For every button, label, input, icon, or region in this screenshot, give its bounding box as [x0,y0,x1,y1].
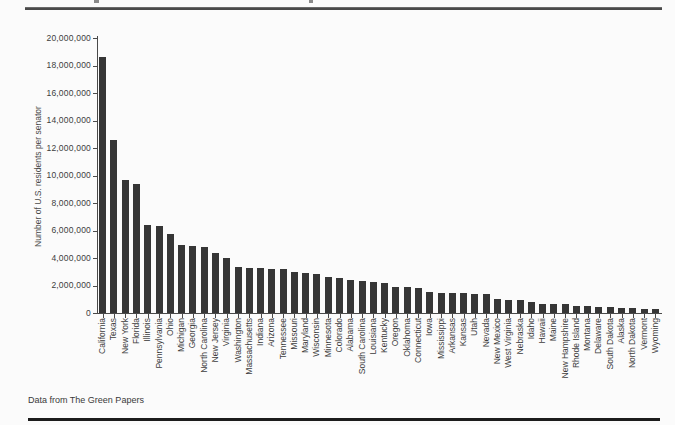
x-label-south-carolina: South Carolina [358,318,367,390]
bar-kansas [460,293,467,313]
y-tick-mark [93,121,97,122]
y-tick-mark [93,176,97,177]
x-label-louisiana: Louisiana [369,318,378,390]
bar-south-carolina [359,281,366,313]
y-tick-mark [93,38,97,39]
residents-per-senator-bar-chart: Number of U.S. residents per senator 02,… [0,0,675,425]
bar-california [99,57,106,313]
x-label-nebraska: Nebraska [516,318,525,390]
y-tick-mark [93,313,97,314]
y-tick-mark [93,148,97,149]
bar-pennsylvania [156,226,163,313]
bar-indiana [257,268,264,313]
x-label-minnesota: Minnesota [324,318,333,390]
x-label-new-jersey: New Jersey [211,318,220,390]
x-label-california: California [98,318,107,390]
x-label-wisconsin: Wisconsin [312,318,321,390]
y-tick-label: 20,000,000 [21,34,91,43]
bar-vermont [641,309,648,313]
y-tick-label: 14,000,000 [21,116,91,125]
x-label-hawaii: Hawaii [538,318,547,390]
x-label-texas: Texas [109,318,118,390]
x-label-oklahoma: Oklahoma [403,318,412,390]
bar-new-york [122,180,129,313]
bar-nebraska [517,300,524,313]
x-label-nevada: Nevada [482,318,491,390]
x-label-tennessee: Tennessee [279,318,288,390]
x-label-west-virginia: West Virginia [504,318,513,390]
x-label-mississippi: Mississippi [437,318,446,390]
y-tick-label: 18,000,000 [21,61,91,70]
bar-delaware [595,307,602,313]
x-label-wyoming: Wyoming [651,318,660,390]
bar-mississippi [438,293,445,313]
x-label-connecticut: Connecticut [414,318,423,390]
x-label-indiana: Indiana [256,318,265,390]
y-tick-label: 2,000,000 [21,281,91,290]
bar-colorado [336,278,343,313]
bar-florida [133,184,140,313]
x-label-virginia: Virginia [222,318,231,390]
bar-wyoming [652,309,659,313]
x-label-iowa: Iowa [425,318,434,390]
bar-oregon [392,287,399,313]
bar-north-carolina [201,247,208,313]
x-label-new-mexico: New Mexico [493,318,502,390]
y-tick-mark [93,231,97,232]
bar-washington [235,267,242,313]
bar-louisiana [370,282,377,313]
y-tick-label: 4,000,000 [21,254,91,263]
bar-iowa [426,292,433,313]
bar-connecticut [415,288,422,313]
bar-west-virginia [505,300,512,313]
bar-rhode-island [573,306,580,313]
bar-new-jersey [212,253,219,313]
bottom-horizontal-rule [28,418,660,421]
bar-idaho [528,302,535,313]
bar-illinois [144,225,151,313]
bar-hawaii [539,304,546,313]
x-label-alaska: Alaska [617,318,626,390]
x-label-georgia: Georgia [188,318,197,390]
y-tick-mark [93,66,97,67]
x-label-oregon: Oregon [391,318,400,390]
data-source-note: Data from The Green Papers [28,395,144,405]
x-label-arizona: Arizona [267,318,276,390]
x-label-montana: Montana [583,318,592,390]
bar-missouri [291,272,298,313]
bar-virginia [223,258,230,313]
x-label-delaware: Delaware [594,318,603,390]
bar-alaska [618,308,625,313]
y-axis-line [97,36,98,314]
x-label-colorado: Colorado [335,318,344,390]
y-tick-label: 16,000,000 [21,89,91,98]
bar-michigan [178,245,185,313]
y-tick-label: 12,000,000 [21,144,91,153]
x-label-michigan: Michigan [177,318,186,390]
y-tick-mark [93,203,97,204]
bar-tennessee [280,269,287,313]
x-label-kansas: Kansas [459,318,468,390]
y-tick-mark [93,93,97,94]
x-label-north-dakota: North Dakota [628,318,637,390]
bar-massachusetts [246,268,253,313]
x-label-new-hampshire: New Hampshire [561,318,570,390]
x-label-south-dakota: South Dakota [606,318,615,390]
bar-new-hampshire [562,304,569,313]
bar-nevada [483,294,490,313]
bar-new-mexico [494,299,501,313]
x-label-arkansas: Arkansas [448,318,457,390]
y-tick-label: 10,000,000 [21,171,91,180]
bar-north-dakota [629,308,636,313]
x-label-north-carolina: North Carolina [200,318,209,390]
bar-utah [471,294,478,313]
x-label-missouri: Missouri [290,318,299,390]
bar-ohio [167,234,174,313]
bar-south-dakota [607,307,614,313]
x-label-maine: Maine [549,318,558,390]
x-label-alabama: Alabama [346,318,355,390]
y-tick-label: 6,000,000 [21,226,91,235]
bar-minnesota [325,277,332,313]
bar-wisconsin [313,274,320,313]
x-label-new-york: New York [121,318,130,390]
